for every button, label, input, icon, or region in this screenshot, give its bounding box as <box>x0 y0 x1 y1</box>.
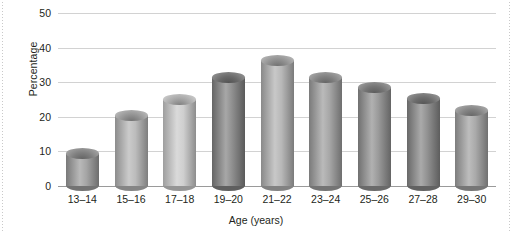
bar[interactable] <box>66 148 99 186</box>
bar[interactable] <box>407 93 440 186</box>
bar-top-ellipse <box>66 148 99 159</box>
y-axis-tick-label: 40 <box>11 43 51 53</box>
y-axis-tick-label: 50 <box>11 8 51 18</box>
bar[interactable] <box>455 105 488 186</box>
bar-body <box>455 110 488 186</box>
x-axis-title: Age (years) <box>0 214 512 226</box>
x-axis-tick-labels: 13–1415–1617–1819–2021–2223–2425–2627–28… <box>58 193 496 209</box>
x-axis-tick-label: 15–16 <box>107 193 156 206</box>
y-axis-tick-label: 30 <box>11 77 51 87</box>
right-edge-rule <box>509 2 510 232</box>
bar[interactable] <box>115 110 148 186</box>
x-axis-tick-label: 13–14 <box>58 193 107 206</box>
bar-body <box>212 77 245 186</box>
bar[interactable] <box>309 72 342 186</box>
x-axis-tick-label: 19–20 <box>204 193 253 206</box>
bar-top-ellipse <box>261 55 294 66</box>
x-axis-tick-label: 17–18 <box>155 193 204 206</box>
x-axis-tick-label: 27–28 <box>399 193 448 206</box>
bar-top-ellipse <box>309 72 342 83</box>
bar-top-ellipse <box>455 105 488 116</box>
x-axis-tick-label: 23–24 <box>301 193 350 206</box>
y-axis-tick-label: 20 <box>11 112 51 122</box>
x-axis-tick-label: 25–26 <box>350 193 399 206</box>
y-axis-tick-label: 0 <box>11 181 51 191</box>
bar[interactable] <box>163 94 196 186</box>
left-edge-rule <box>2 2 3 232</box>
bar-body <box>309 77 342 186</box>
bar-top-ellipse <box>212 72 245 83</box>
bar-body <box>115 115 148 186</box>
bar-body <box>358 87 391 186</box>
bar-body <box>261 60 294 186</box>
y-axis-tick-label: 10 <box>11 146 51 156</box>
bar-top-ellipse <box>407 93 440 104</box>
bar[interactable] <box>358 82 391 186</box>
bar-body <box>407 98 440 186</box>
bar[interactable] <box>261 55 294 186</box>
plot-area: 01020304050 <box>58 13 496 186</box>
bar-body <box>163 99 196 186</box>
bar[interactable] <box>212 72 245 186</box>
bars-group <box>58 13 496 186</box>
bar-top-ellipse <box>115 110 148 121</box>
x-axis-tick-label: 21–22 <box>253 193 302 206</box>
x-axis-tick-label: 29–30 <box>447 193 496 206</box>
bar-chart-figure: Percentage Age (years) 01020304050 13–14… <box>0 0 512 234</box>
